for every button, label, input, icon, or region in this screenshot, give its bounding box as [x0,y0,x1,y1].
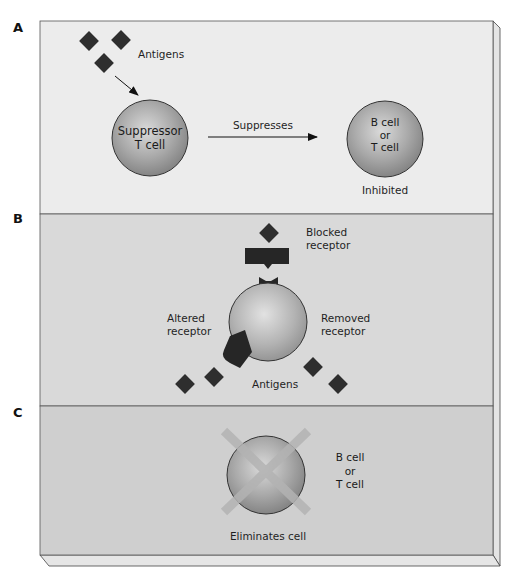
panel-label-a: A [13,20,23,35]
target-cell-line2: or [355,129,415,142]
suppresses-label: Suppresses [218,119,308,132]
antigens-label-a: Antigens [138,48,184,61]
blocked-line2: receptor [306,239,350,252]
target-cell-label: B cell or T cell [355,116,415,154]
blocked-line1: Blocked [306,226,350,239]
altered-receptor-label: Altered receptor [167,312,211,338]
removed-receptor-label: Removed receptor [321,312,370,338]
inhibited-label: Inhibited [345,184,425,197]
removed-line2: receptor [321,325,370,338]
blocked-receptor-label: Blocked receptor [306,226,350,252]
target-cell-line1: B cell [355,116,415,129]
c-cell-line2: or [322,465,378,479]
removed-line1: Removed [321,312,370,325]
figure: A B C Antigens Suppressor T cell Suppres… [0,0,512,580]
antigens-label-b: Antigens [252,378,298,391]
altered-line2: receptor [167,325,211,338]
target-cell-line3: T cell [355,141,415,154]
diagram-canvas [0,0,512,580]
panel-label-c: C [13,405,23,420]
c-cell-line3: T cell [322,478,378,492]
suppressor-cell-label: Suppressor T cell [112,124,188,152]
eliminated-cell-label: B cell or T cell [322,451,378,492]
altered-line1: Altered [167,312,211,325]
panel-a-background [40,21,493,214]
eliminates-cell-label: Eliminates cell [220,530,316,543]
c-cell-line1: B cell [322,451,378,465]
panel-label-b: B [13,211,23,226]
suppressor-cell-line1: Suppressor [112,124,188,138]
suppressor-cell-line2: T cell [112,138,188,152]
